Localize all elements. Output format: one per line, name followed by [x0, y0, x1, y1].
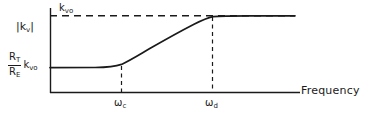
y-tick-label-rt-re-kvo: RT RE kvo — [8, 52, 38, 79]
fraction-numerator-base: R — [9, 51, 16, 62]
x-tick-label-omega-d-subscript: d — [213, 102, 217, 110]
plot-canvas — [0, 0, 366, 116]
x-tick-label-omega-c-subscript: c — [122, 102, 126, 110]
resistor-ratio-fraction: RT RE — [8, 52, 21, 79]
x-axis-title: Frequency — [301, 85, 360, 96]
fraction-denominator-subscript: E — [16, 71, 20, 79]
fraction-denominator: RE — [8, 66, 21, 79]
fraction-denominator-base: R — [9, 66, 16, 77]
y-tick-label-kvo: kvo — [59, 3, 73, 15]
y-tick-label-rt-re-kvo-tail-subscript: vo — [29, 64, 37, 72]
x-tick-label-omega-c: ωc — [114, 98, 126, 110]
response-curve — [50, 16, 295, 68]
y-axis-title: |kv| — [16, 21, 34, 34]
y-axis-title-base: |k — [16, 20, 26, 33]
y-tick-label-kvo-subscript: vo — [65, 7, 73, 15]
fraction-numerator-subscript: T — [16, 56, 20, 64]
y-axis-title-tail: | — [30, 20, 34, 33]
bode-magnitude-figure: kvo |kv| RT RE kvo ωc ωd Frequency — [0, 0, 366, 116]
y-tick-label-rt-re-kvo-tail: kvo — [23, 60, 37, 72]
fraction-numerator: RT — [8, 52, 21, 65]
x-tick-label-omega-d: ωd — [205, 98, 218, 110]
